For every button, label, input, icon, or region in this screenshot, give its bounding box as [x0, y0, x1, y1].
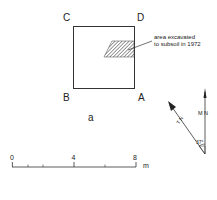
site-plan-diagram: area excavated to subsoil in 1972 C D B …	[0, 0, 217, 200]
trench-outline	[74, 27, 135, 89]
scale-tick-4: 4	[72, 154, 76, 161]
corner-label-a: A	[138, 92, 145, 103]
magnetic-north-arrowhead-icon	[204, 88, 207, 98]
scale-bar: 0 4 8 m	[10, 154, 149, 169]
corner-label-b: B	[63, 92, 70, 103]
scale-tick-8: 8	[133, 154, 137, 161]
annotation-line-1: area excavated	[154, 34, 195, 40]
scale-tick-0: 0	[10, 154, 14, 161]
magnetic-north-label: M N	[198, 110, 208, 116]
scale-unit: m	[143, 162, 149, 169]
corner-label-d: D	[137, 12, 144, 23]
angle-label: 37°	[196, 139, 204, 145]
figure-label: a	[88, 112, 94, 123]
true-north-arrowhead-icon	[168, 101, 176, 111]
north-arrow: M N T N 37°	[168, 88, 208, 154]
excavated-area	[104, 41, 134, 57]
true-north-label: T N	[175, 115, 185, 125]
corner-label-c: C	[63, 12, 70, 23]
annotation-line-2: to subsoil in 1972	[154, 41, 201, 47]
angle-wedge	[199, 146, 205, 154]
